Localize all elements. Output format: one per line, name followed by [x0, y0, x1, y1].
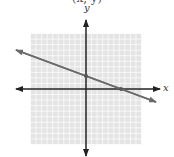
coordinate-plane — [0, 0, 174, 157]
x-axis-label: x — [163, 82, 169, 93]
y-intercept-point — [84, 74, 88, 78]
y-axis-label: y — [84, 2, 90, 13]
x-intercept-point — [119, 87, 123, 91]
graph-figure: (x, y) y x — [0, 0, 174, 157]
